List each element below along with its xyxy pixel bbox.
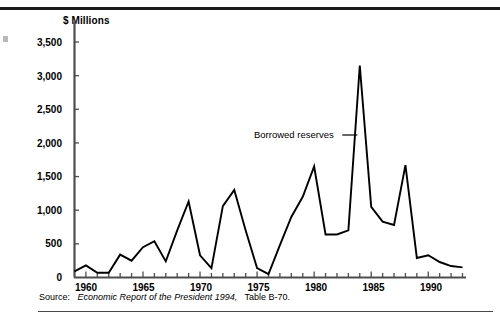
- figure-borrowed-reserves: $ Millions 0 500 1,000 1,500 2,000 2,500…: [0, 0, 500, 319]
- axis-lines: [74, 22, 466, 278]
- bottom-rule: [38, 311, 493, 312]
- plot-area: [0, 0, 500, 319]
- source-body: Economic Report of the President 1994,: [78, 292, 238, 302]
- source-label: Source:: [39, 292, 70, 302]
- source-note: Source: Economic Report of the President…: [39, 292, 290, 302]
- source-tail: Table B-70.: [245, 292, 291, 302]
- annotation-borrowed-reserves: Borrowed reserves: [254, 129, 334, 140]
- x-tick-marks: [86, 272, 463, 278]
- data-line-borrowed-reserves: [75, 66, 463, 275]
